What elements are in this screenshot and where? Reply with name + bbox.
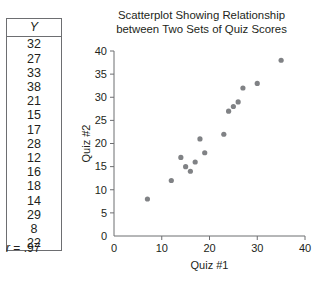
table-row: 38: [7, 80, 62, 94]
data-point: [197, 136, 202, 141]
table-cell-y: 18: [7, 179, 62, 193]
table-row: 29: [7, 208, 62, 222]
table-row: 17: [7, 123, 62, 137]
table-cell-y: 32: [7, 37, 62, 52]
data-point: [145, 196, 150, 201]
y-tick-label: 25: [95, 114, 107, 126]
table-row: 14: [7, 194, 62, 208]
table-row: 16: [7, 165, 62, 179]
y-values-table: Y 32273338211517281216181429822: [6, 18, 62, 251]
table-cell-y: 16: [7, 165, 62, 179]
figure-root: Y 32273338211517281216181429822 r = .97 …: [0, 0, 325, 304]
x-tick-label: 20: [203, 242, 215, 254]
column-header-y: Y: [7, 19, 62, 37]
table-row: 28: [7, 137, 62, 151]
table-row: 15: [7, 108, 62, 122]
y-axis-label: Quiz #2: [80, 125, 92, 163]
table-cell-y: 12: [7, 151, 62, 165]
table-row: 12: [7, 151, 62, 165]
table-cell-y: 33: [7, 66, 62, 80]
y-tick-label: 10: [95, 184, 107, 196]
data-point: [226, 109, 231, 114]
data-point: [240, 85, 245, 90]
correlation-text: = .97: [10, 241, 40, 255]
y-tick-label: 5: [101, 207, 107, 219]
y-tick-label: 0: [101, 230, 107, 242]
table-cell-y: 17: [7, 123, 62, 137]
x-tick-label: 30: [251, 242, 263, 254]
data-point: [178, 155, 183, 160]
table-cell-y: 27: [7, 52, 62, 66]
x-tick-label: 40: [299, 242, 311, 254]
table-cell-y: 14: [7, 194, 62, 208]
table-cell-y: 8: [7, 222, 62, 236]
y-tick-label: 15: [95, 160, 107, 172]
data-point: [236, 99, 241, 104]
x-tick-label: 10: [156, 242, 168, 254]
table-row: 32: [7, 37, 62, 52]
data-point: [169, 178, 174, 183]
table-row: 27: [7, 52, 62, 66]
data-point: [183, 164, 188, 169]
table-row: 21: [7, 94, 62, 108]
plot-area: 0510152025303540010203040Quiz #1Quiz #2: [78, 0, 325, 304]
table-cell-y: 38: [7, 80, 62, 94]
correlation-value: r = .97: [6, 241, 40, 255]
y-tick-label: 35: [95, 68, 107, 80]
table-row: 18: [7, 179, 62, 193]
table-row: 8: [7, 222, 62, 236]
table-row: 33: [7, 66, 62, 80]
data-point: [279, 58, 284, 63]
y-tick-label: 20: [95, 137, 107, 149]
data-point: [221, 132, 226, 137]
table: Y 32273338211517281216181429822: [6, 18, 62, 251]
data-point: [255, 81, 260, 86]
table-cell-y: 15: [7, 108, 62, 122]
y-tick-label: 30: [95, 91, 107, 103]
data-point: [193, 159, 198, 164]
table-body: 32273338211517281216181429822: [7, 37, 62, 251]
table-cell-y: 29: [7, 208, 62, 222]
y-tick-label: 40: [95, 45, 107, 57]
data-point: [188, 169, 193, 174]
x-tick-label: 0: [111, 242, 117, 254]
scatterplot: Scatterplot Showing Relationship between…: [78, 0, 325, 304]
x-axis-label: Quiz #1: [191, 259, 229, 271]
table-cell-y: 28: [7, 137, 62, 151]
data-point: [231, 104, 236, 109]
data-point: [202, 150, 207, 155]
table-cell-y: 21: [7, 94, 62, 108]
table-header-row: Y: [7, 19, 62, 37]
